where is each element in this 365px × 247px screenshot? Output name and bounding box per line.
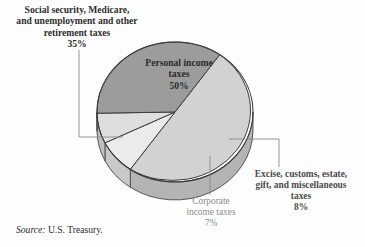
source-value: U.S. Treasury.: [45, 224, 102, 235]
label-corporate-income: Corporate income taxes 7%: [168, 196, 254, 229]
pie-chart-figure: Social security, Medicare, and unemploym…: [0, 0, 365, 247]
label-social-security: Social security, Medicare, and unemploym…: [4, 4, 150, 49]
label-personal-income: Personal income taxes 50%: [123, 57, 235, 91]
source-note: Source: U.S. Treasury.: [16, 224, 103, 235]
label-excise-customs: Excise, customs, estate, gift, and misce…: [240, 169, 362, 213]
source-label: Source:: [16, 224, 45, 235]
